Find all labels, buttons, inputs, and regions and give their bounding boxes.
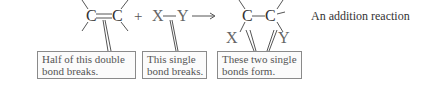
- reaction-caption: An addition reaction: [311, 10, 410, 22]
- product-carbon-left: C: [242, 8, 253, 24]
- reagent-atom-x: X: [152, 8, 164, 24]
- callout-single-bond: This single bond breaks.: [142, 51, 207, 79]
- callout-new-bonds: These two single bonds form.: [217, 51, 302, 79]
- callout-line: bond breaks.: [42, 66, 131, 78]
- alkene-carbon-left: C: [86, 8, 97, 24]
- callout-double-bond: Half of this double bond breaks.: [37, 51, 136, 79]
- alkene-carbon-right: C: [112, 8, 123, 24]
- product-substituent-x: X: [226, 30, 238, 46]
- callout-line: This single: [147, 54, 202, 66]
- callout-line: These two single: [222, 54, 297, 66]
- callout-line: Half of this double: [42, 54, 131, 66]
- callout-line: bonds form.: [222, 66, 297, 78]
- callout-line: bond breaks.: [147, 66, 202, 78]
- product-carbon-right: C: [265, 8, 276, 24]
- reagent-atom-y: Y: [177, 8, 189, 24]
- plus-sign: +: [134, 9, 142, 24]
- product-substituent-y: Y: [278, 30, 290, 46]
